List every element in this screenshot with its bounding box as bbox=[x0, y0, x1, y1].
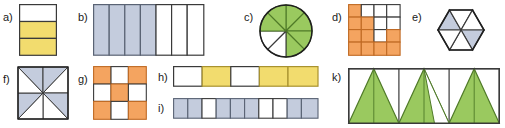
cell-b-6 bbox=[172, 5, 188, 56]
cell-b-1 bbox=[94, 5, 110, 56]
cell-b-7 bbox=[187, 5, 204, 56]
figure-c bbox=[258, 3, 314, 59]
cell-i-2 bbox=[188, 99, 202, 119]
cell-g-r1c3 bbox=[128, 67, 146, 84]
figure-h bbox=[173, 66, 319, 87]
figure-f bbox=[17, 66, 69, 120]
cell-i-5 bbox=[230, 99, 244, 119]
hexagon-six-triangles bbox=[428, 6, 494, 54]
cell-g-r1c2 bbox=[111, 67, 128, 84]
cell-g-r2c1 bbox=[94, 84, 111, 101]
figure-a bbox=[19, 4, 57, 56]
cell-g-r1c1 bbox=[94, 67, 111, 84]
figure-label-h: h) bbox=[158, 72, 168, 83]
cell-d-r3c4 bbox=[387, 30, 400, 42]
figure-e bbox=[428, 6, 494, 54]
cell-i-4 bbox=[216, 99, 230, 119]
cell-h-5 bbox=[288, 67, 318, 87]
cell-d-r4c2 bbox=[361, 42, 374, 55]
figure-label-f: f) bbox=[3, 74, 10, 85]
figure-label-a: a) bbox=[3, 12, 13, 23]
cell-i-7 bbox=[259, 99, 273, 119]
figure-label-d: d) bbox=[332, 12, 342, 23]
figure-d bbox=[348, 4, 401, 56]
cell-i-6 bbox=[245, 99, 259, 119]
figure-label-i: i) bbox=[158, 103, 164, 114]
cell-g-r2c2 bbox=[111, 84, 128, 101]
figure-label-c: c) bbox=[244, 12, 253, 23]
figure-label-k: k) bbox=[332, 72, 341, 83]
triangles-in-rectangle bbox=[348, 68, 500, 124]
eight-sector-circle bbox=[258, 3, 314, 59]
five-cell-strip bbox=[173, 66, 319, 87]
cell-a-3 bbox=[20, 38, 57, 55]
figure-label-b: b) bbox=[78, 12, 88, 23]
cell-d-r2c4 bbox=[387, 17, 400, 30]
cell-d-r4c1 bbox=[349, 42, 362, 55]
vertical-thirds-rectangle bbox=[19, 4, 57, 56]
square-eight-triangles bbox=[17, 66, 69, 120]
cell-i-8 bbox=[273, 99, 287, 119]
cell-d-r2c3 bbox=[374, 17, 387, 30]
cell-i-1 bbox=[174, 99, 188, 119]
cell-i-10 bbox=[301, 99, 318, 119]
worksheet-figure-sheet: a) b) c) bbox=[0, 0, 505, 128]
cell-b-2 bbox=[109, 5, 125, 56]
cell-b-4 bbox=[140, 5, 156, 56]
figure-g bbox=[93, 66, 147, 120]
cell-g-r2c3 bbox=[128, 84, 146, 101]
cell-d-r1c2 bbox=[361, 5, 374, 18]
cell-d-r1c1 bbox=[349, 5, 362, 18]
cell-h-2 bbox=[202, 67, 231, 87]
cell-d-r2c1 bbox=[349, 17, 362, 30]
figure-b bbox=[93, 4, 205, 56]
cell-h-4 bbox=[259, 67, 288, 87]
cell-a-2 bbox=[20, 22, 57, 39]
cell-b-5 bbox=[156, 5, 172, 56]
cell-d-r3c1 bbox=[349, 30, 362, 42]
cell-g-r3c3 bbox=[128, 101, 146, 119]
three-by-three-checkerboard bbox=[93, 66, 147, 120]
figure-k bbox=[348, 68, 500, 124]
cell-d-r4c4 bbox=[387, 42, 400, 55]
cell-g-r3c2 bbox=[111, 101, 128, 119]
cell-d-r1c4 bbox=[387, 5, 400, 18]
cell-g-r3c1 bbox=[94, 101, 111, 119]
cell-d-r3c2 bbox=[361, 30, 374, 42]
ten-cell-strip bbox=[173, 98, 319, 119]
cell-i-3 bbox=[202, 99, 216, 119]
cell-h-3 bbox=[231, 67, 260, 87]
figure-label-g: g) bbox=[78, 74, 88, 85]
cell-b-3 bbox=[125, 5, 141, 56]
figure-i bbox=[173, 98, 319, 119]
cell-d-r3c3 bbox=[374, 30, 387, 42]
cell-d-r2c2 bbox=[361, 17, 374, 30]
four-by-four-grid bbox=[348, 4, 401, 56]
cell-i-9 bbox=[287, 99, 301, 119]
cell-d-r1c3 bbox=[374, 5, 387, 18]
cell-d-r4c3 bbox=[374, 42, 387, 55]
figure-label-e: e) bbox=[412, 12, 422, 23]
cell-h-1 bbox=[174, 67, 203, 87]
cell-a-1 bbox=[20, 5, 57, 22]
seven-column-rectangle bbox=[93, 4, 205, 56]
